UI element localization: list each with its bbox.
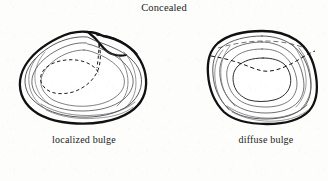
caption-localized-bulge: localized bulge <box>24 134 144 145</box>
caption-diffuse-bulge: diffuse bulge <box>216 134 316 145</box>
diagram-canvas <box>0 0 328 181</box>
left-bulge-diagram <box>20 32 146 124</box>
figure-root: Concealed <box>0 0 328 181</box>
right-bulge-diagram <box>208 31 317 124</box>
